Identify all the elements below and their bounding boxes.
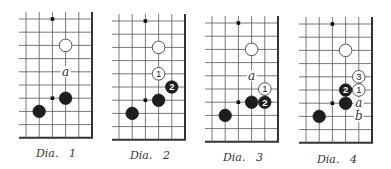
white-stone (59, 39, 72, 52)
caption-dia-4: Dia. 4 (317, 153, 357, 166)
white-stone (152, 41, 165, 54)
move-number-3: 3 (356, 71, 361, 82)
black-stone (219, 109, 232, 122)
point-label-a: a (62, 65, 69, 79)
go-board-dia-3: a12 (205, 16, 279, 142)
hoshi-point (51, 17, 55, 21)
hoshi-point (331, 22, 335, 26)
point-label-b: b (355, 109, 363, 123)
black-stone (339, 97, 352, 110)
black-stone (152, 94, 165, 107)
hoshi-point (237, 100, 241, 104)
hoshi-point (237, 21, 241, 25)
move-number-1: 1 (262, 83, 267, 94)
point-label-a: a (355, 96, 362, 110)
move-number-1: 1 (356, 84, 361, 95)
caption-dia-3: Dia. 3 (223, 151, 263, 164)
caption-dia-2: Dia. 2 (130, 149, 170, 162)
white-stone (245, 43, 258, 56)
hoshi-point (51, 96, 55, 100)
black-stone (59, 92, 72, 105)
move-number-2: 2 (343, 84, 348, 95)
go-board-dia-2: 12 (112, 14, 186, 140)
move-number-1: 1 (156, 68, 161, 79)
move-number-2: 2 (262, 97, 267, 108)
white-stone (339, 44, 352, 57)
hoshi-point (331, 101, 335, 105)
caption-dia-1: Dia. 1 (36, 147, 76, 160)
move-number-2: 2 (169, 81, 174, 92)
hoshi-point (144, 19, 148, 23)
black-stone (126, 107, 139, 120)
go-board-dia-1: a (19, 12, 93, 138)
point-label-a: a (248, 69, 255, 83)
black-stone (313, 110, 326, 123)
black-stone (33, 105, 46, 118)
go-board-dia-4: ab312 (299, 17, 373, 143)
black-stone (245, 96, 258, 109)
hoshi-point (144, 98, 148, 102)
go-diagrams-figure: a12a12ab312 (0, 0, 391, 169)
